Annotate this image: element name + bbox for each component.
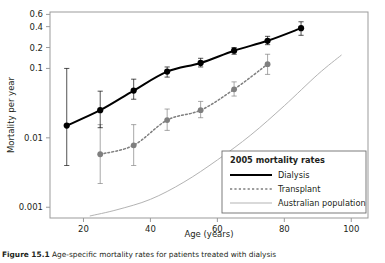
data-point xyxy=(231,86,237,92)
y-tick-label: 0.2 xyxy=(29,43,43,53)
figure-container: 0.0010.010.10.20.40.6 20406080100 Age (y… xyxy=(0,0,385,263)
y-tick-label: 0.4 xyxy=(29,22,43,32)
y-axis-title: Mortality per year xyxy=(6,76,16,153)
data-point xyxy=(198,60,204,66)
legend-title: 2005 mortality rates xyxy=(230,155,325,165)
data-point xyxy=(97,107,103,113)
y-tick-label: 0.001 xyxy=(19,202,43,212)
x-tick-label: 20 xyxy=(78,224,89,234)
data-point xyxy=(264,38,270,44)
data-point xyxy=(131,142,137,148)
data-point xyxy=(164,69,170,75)
data-point xyxy=(64,123,70,129)
data-point xyxy=(298,25,304,31)
x-tick-label: 40 xyxy=(145,224,156,234)
x-axis-title: Age (years) xyxy=(184,229,233,239)
y-axis: 0.0010.010.10.20.40.6 xyxy=(19,9,50,212)
data-point xyxy=(265,61,271,67)
data-point xyxy=(97,151,103,157)
mortality-rate-chart: 0.0010.010.10.20.40.6 20406080100 Age (y… xyxy=(0,0,385,240)
y-tick-label: 0.6 xyxy=(29,9,43,19)
figure-caption: Figure 15.1 Age-specific mortality rates… xyxy=(2,250,383,259)
chart-legend: 2005 mortality rates Dialysis Transplant… xyxy=(222,151,366,213)
data-point xyxy=(198,107,204,113)
legend-label-australian-population: Australian population xyxy=(278,198,366,208)
x-tick-label: 100 xyxy=(343,224,359,234)
x-tick-label: 80 xyxy=(279,224,290,234)
data-point xyxy=(131,87,137,93)
y-tick-label: 0.01 xyxy=(24,133,43,143)
figure-caption-text: Age-specific mortality rates for patient… xyxy=(52,250,276,259)
figure-caption-label: Figure 15.1 xyxy=(2,250,50,259)
data-point xyxy=(164,117,170,123)
data-point xyxy=(231,48,237,54)
y-tick-label: 0.1 xyxy=(29,63,43,73)
legend-label-dialysis: Dialysis xyxy=(278,170,310,180)
legend-label-transplant: Transplant xyxy=(277,184,321,194)
